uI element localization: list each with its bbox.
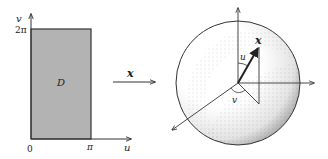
- v-max-label: 2π: [15, 25, 27, 35]
- sphere-figure: x u v: [172, 8, 320, 159]
- polar-angle-label: u: [240, 52, 246, 62]
- azimuth-angle-label: v: [232, 95, 237, 105]
- map-label: x: [126, 67, 134, 80]
- diagram-canvas: D v u 0 π 2π x x u v: [0, 0, 328, 159]
- point-label: x: [254, 34, 262, 47]
- v-axis-label: v: [16, 13, 22, 24]
- region-label: D: [56, 77, 65, 88]
- mapping-arrow: x: [113, 67, 155, 82]
- u-axis-label: u: [124, 142, 130, 153]
- parameter-domain: D v u 0 π 2π: [15, 13, 131, 154]
- u-max-label: π: [86, 142, 94, 152]
- origin-label: 0: [27, 144, 33, 154]
